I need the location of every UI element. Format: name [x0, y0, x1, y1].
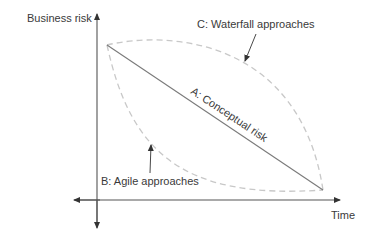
agile-label: B: Agile approaches	[101, 175, 199, 187]
waterfall-pointer-arrow	[245, 34, 256, 61]
x-axis-label: Time	[331, 209, 355, 221]
y-axis-label: Business risk	[27, 12, 92, 24]
agile-pointer-arrow	[150, 145, 151, 173]
waterfall-curve	[107, 40, 323, 190]
risk-diagram: Business risk Time C: Waterfall approach…	[0, 0, 372, 239]
conceptual-risk-label: A: Conceptual risk	[189, 85, 270, 145]
conceptual-risk-line	[107, 45, 323, 190]
waterfall-label: C: Waterfall approaches	[197, 18, 315, 30]
